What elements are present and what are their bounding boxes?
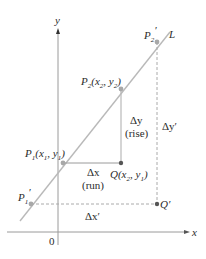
- origin-label: 0: [49, 235, 55, 247]
- label-Q-prime: Q′: [160, 198, 171, 210]
- label-P1: P1(x1, y1): [24, 147, 65, 162]
- delta-x-label: Δx: [87, 166, 100, 178]
- y-axis-arrow-icon: [56, 28, 60, 34]
- line-L-label: L: [168, 28, 175, 40]
- point-P2: [119, 87, 124, 92]
- slope-diagram: x y 0 L P2′ P2(x2, y2) P1(x1, y1) P1′ Q(…: [0, 0, 206, 259]
- run-label: (run): [82, 179, 104, 192]
- x-axis-label: x: [191, 226, 197, 238]
- point-Q: [119, 161, 123, 165]
- delta-y-prime-label: Δy′: [162, 120, 177, 132]
- y-axis-label: y: [54, 14, 60, 26]
- delta-x-prime-label: Δx′: [85, 210, 100, 222]
- label-Q: Q(x2, y1): [110, 168, 148, 183]
- label-P2: P2(x2, y2): [80, 75, 121, 90]
- point-P1-prime: [29, 202, 34, 207]
- delta-y-label: Δy: [130, 114, 143, 126]
- point-P1: [61, 161, 66, 166]
- point-Q-prime: [155, 202, 159, 206]
- x-axis-arrow-icon: [184, 230, 190, 234]
- point-P2-prime: [155, 40, 160, 45]
- rise-label: (rise): [125, 127, 149, 140]
